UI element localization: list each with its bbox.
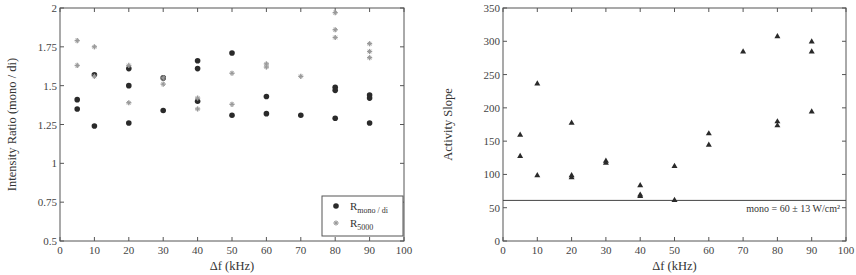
data-point-circle bbox=[126, 120, 132, 126]
x-tick-label: 0 bbox=[500, 244, 506, 256]
data-point-star bbox=[75, 38, 80, 43]
x-tick-label: 100 bbox=[396, 244, 413, 256]
y-tick-label: 300 bbox=[484, 35, 501, 47]
y-tick-label: 2 bbox=[52, 2, 58, 14]
data-point-triangle bbox=[706, 141, 712, 146]
data-point-triangle bbox=[534, 80, 540, 85]
x-tick-label: 100 bbox=[838, 244, 855, 256]
activity-slope-plot: 0102030405060708090100050100150200250300… bbox=[428, 0, 856, 275]
x-tick-label: 30 bbox=[158, 244, 170, 256]
x-tick-label: 80 bbox=[772, 244, 784, 256]
data-point-triangle bbox=[809, 48, 815, 53]
data-point-star bbox=[367, 49, 372, 54]
data-point-star bbox=[229, 71, 234, 76]
intensity-ratio-chart: 01020304050607080901000.50.7511.251.51.7… bbox=[0, 0, 428, 275]
data-point-star bbox=[333, 10, 338, 15]
x-tick-label: 0 bbox=[57, 244, 63, 256]
data-point-circle bbox=[332, 115, 338, 121]
x-tick-label: 40 bbox=[192, 244, 204, 256]
y-tick-label: 1.25 bbox=[38, 119, 58, 131]
x-tick-label: 60 bbox=[703, 244, 715, 256]
x-tick-label: 50 bbox=[227, 244, 239, 256]
data-point-star bbox=[75, 63, 80, 68]
y-tick-label: 200 bbox=[484, 102, 501, 114]
data-point-circle bbox=[229, 50, 235, 56]
x-tick-label: 90 bbox=[364, 244, 376, 256]
x-tick-label: 10 bbox=[532, 244, 544, 256]
data-point-star bbox=[161, 82, 166, 87]
y-tick-label: 250 bbox=[484, 69, 501, 81]
x-tick-label: 60 bbox=[261, 244, 273, 256]
data-point-circle bbox=[367, 120, 373, 126]
data-point-circle bbox=[160, 108, 166, 114]
data-point-star bbox=[195, 106, 200, 111]
data-point-triangle bbox=[517, 131, 523, 136]
x-tick-label: 70 bbox=[738, 244, 750, 256]
x-tick-label: 50 bbox=[669, 244, 681, 256]
x-tick-label: 30 bbox=[600, 244, 612, 256]
data-point-star bbox=[298, 74, 303, 79]
data-point-star bbox=[333, 27, 338, 32]
data-point-circle bbox=[333, 203, 339, 209]
x-tick-label: 40 bbox=[635, 244, 647, 256]
y-tick-label: 100 bbox=[484, 168, 501, 180]
data-point-triangle bbox=[706, 130, 712, 135]
x-tick-label: 90 bbox=[806, 244, 818, 256]
data-point-circle bbox=[332, 88, 338, 94]
x-tick-label: 70 bbox=[295, 244, 307, 256]
y-tick-label: 0.5 bbox=[43, 235, 57, 247]
data-point-circle bbox=[195, 66, 201, 72]
data-point-circle bbox=[229, 112, 235, 118]
y-tick-label: 50 bbox=[489, 202, 501, 214]
data-point-triangle bbox=[637, 182, 643, 187]
x-tick-label: 20 bbox=[123, 244, 135, 256]
data-point-triangle bbox=[672, 163, 678, 168]
data-point-circle bbox=[298, 112, 304, 118]
y-tick-label: 1 bbox=[52, 157, 58, 169]
data-point-circle bbox=[92, 123, 98, 129]
data-point-circle bbox=[195, 58, 201, 64]
data-point-star bbox=[367, 41, 372, 46]
x-axis-label: Δf (kHz) bbox=[210, 259, 254, 273]
y-tick-label: 0.75 bbox=[38, 196, 58, 208]
x-tick-label: 80 bbox=[330, 244, 342, 256]
data-point-circle bbox=[74, 106, 80, 112]
reference-annotation: mono = 60 ± 13 W/cm² bbox=[746, 203, 840, 214]
data-point-triangle bbox=[774, 33, 780, 38]
data-point-triangle bbox=[672, 197, 678, 202]
data-point-circle bbox=[367, 95, 373, 101]
data-point-triangle bbox=[740, 48, 746, 53]
activity-slope-chart: 0102030405060708090100050100150200250300… bbox=[428, 0, 856, 275]
y-tick-label: 0 bbox=[495, 235, 501, 247]
data-point-star bbox=[92, 44, 97, 49]
legend: Rmono / diR5000 bbox=[322, 196, 403, 236]
data-point-triangle bbox=[569, 120, 575, 125]
data-point-triangle bbox=[809, 38, 815, 43]
data-point-triangle bbox=[534, 172, 540, 177]
data-point-triangle bbox=[517, 153, 523, 158]
data-point-star bbox=[367, 55, 372, 60]
y-axis-label: Intensity Ratio (mono / di) bbox=[5, 58, 19, 191]
data-point-circle bbox=[264, 94, 270, 100]
data-point-triangle bbox=[809, 108, 815, 113]
x-axis-label: Δf (kHz) bbox=[652, 259, 696, 273]
x-tick-label: 20 bbox=[566, 244, 578, 256]
y-tick-label: 150 bbox=[484, 135, 501, 147]
data-point-star bbox=[229, 102, 234, 107]
data-point-star bbox=[333, 35, 338, 40]
y-axis-label: Activity Slope bbox=[441, 88, 455, 161]
x-tick-label: 10 bbox=[89, 244, 101, 256]
data-point-circle bbox=[126, 83, 132, 89]
data-point-circle bbox=[264, 111, 270, 117]
y-tick-label: 1.75 bbox=[38, 41, 58, 53]
data-point-star bbox=[126, 100, 131, 105]
y-tick-label: 1.5 bbox=[43, 80, 57, 92]
intensity-ratio-plot: 01020304050607080901000.50.7511.251.51.7… bbox=[0, 0, 428, 275]
data-point-circle bbox=[74, 97, 80, 103]
y-tick-label: 350 bbox=[484, 2, 501, 14]
